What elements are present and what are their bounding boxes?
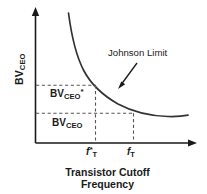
- johnson-limit-curve: [69, 13, 189, 117]
- bvceo-star-label-main: BV: [50, 88, 64, 99]
- x-axis-title-line1: Transistor Cutoff: [65, 166, 150, 178]
- bvceo-star-label-star: *: [80, 87, 83, 96]
- johnson-limit-figure: BVCEO Transistor Cutoff Frequency BVCEO*…: [0, 0, 207, 194]
- y-axis-title: BVCEO: [14, 53, 25, 85]
- ft-star-tick-label: f*T: [86, 147, 97, 157]
- x-axis-title: Transistor Cutoff Frequency: [45, 166, 170, 190]
- y-axis-title-main: BV: [13, 70, 25, 85]
- y-axis: [32, 7, 39, 143]
- y-axis-title-sub: CEO: [18, 53, 27, 70]
- johnson-limit-annotation: Johnson Limit: [108, 48, 167, 58]
- ft-star-tick-sub: T: [92, 150, 97, 159]
- x-axis: [36, 139, 198, 146]
- ft-tick-label: fT: [127, 147, 135, 157]
- x-axis-title-line2: Frequency: [81, 178, 134, 190]
- bvceo-star-label-sub: CEO: [64, 92, 80, 101]
- ft-tick-sub: T: [130, 150, 135, 159]
- bvceo-label-sub: CEO: [66, 121, 82, 130]
- bvceo-label: BVCEO: [52, 118, 82, 128]
- bvceo-label-main: BV: [52, 117, 66, 128]
- plot-canvas: [0, 0, 207, 194]
- johnson-limit-leader: [118, 63, 137, 89]
- bvceo-star-label: BVCEO*: [50, 89, 84, 99]
